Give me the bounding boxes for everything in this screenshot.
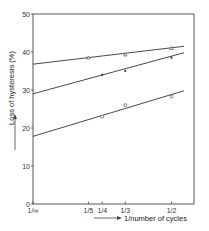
plot-frame xyxy=(33,14,194,204)
series-line-0 xyxy=(33,46,184,64)
y-tick-label: 50 xyxy=(22,11,30,18)
x-tick-label: 1/2 xyxy=(167,207,177,214)
data-point-dot xyxy=(101,74,103,76)
series-line-2 xyxy=(33,91,184,137)
x-tick-label: 1/3 xyxy=(120,207,130,214)
y-tick-label: 30 xyxy=(22,87,30,94)
y-tick-label: 10 xyxy=(22,163,30,170)
x-tick-label: 1/∞ xyxy=(28,207,39,214)
x-axis-title: 1/number of cycles xyxy=(124,214,187,223)
x-tick-label: 1/4 xyxy=(97,207,107,214)
y-tick-label: 40 xyxy=(22,49,30,56)
data-point-circle xyxy=(170,95,173,98)
chart: 01020304050 1/∞1/51/41/31/2 Loss of hyst… xyxy=(0,0,209,231)
x-axis-arrow-head xyxy=(117,216,122,220)
y-axis-title: Loss of hysteresis (%) xyxy=(7,51,16,125)
data-point-dot xyxy=(124,70,126,72)
series-line-1 xyxy=(33,53,184,94)
y-tick-label: 20 xyxy=(22,125,30,132)
data-point-circle xyxy=(101,115,104,118)
x-tick-label: 1/5 xyxy=(84,207,94,214)
data-point-circle xyxy=(124,104,127,107)
data-point-dot xyxy=(170,57,172,59)
